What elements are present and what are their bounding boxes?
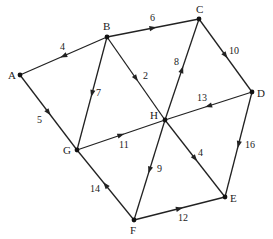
edges-group [20, 19, 252, 220]
arrowhead-icon [60, 52, 67, 57]
arrowhead-icon [132, 74, 138, 81]
arrowhead-icon [237, 140, 242, 147]
node-label: H [150, 109, 158, 121]
node-label: B [103, 20, 110, 32]
edge-weight-label: 7 [96, 87, 101, 98]
node-B [105, 35, 110, 40]
node-label: F [130, 224, 136, 236]
edge-weight-label: 2 [143, 70, 148, 81]
edge-weight-label: 11 [119, 139, 129, 150]
arrowhead-icon [148, 166, 153, 173]
edge-weight-label: 6 [150, 12, 155, 23]
node-E [223, 195, 228, 200]
arrowheads-group [44, 26, 242, 212]
node-H [163, 118, 168, 123]
edge-weight-label: 16 [245, 139, 255, 150]
node-C [197, 17, 202, 22]
node-G [75, 148, 80, 153]
edge-weight-label: 10 [229, 45, 239, 56]
labels-group: 45672810131194161214ABCDEFGH [8, 3, 265, 236]
edge-weight-label: 13 [197, 92, 207, 103]
edge-weight-label: 14 [90, 183, 100, 194]
node-D [250, 90, 255, 95]
edge-weight-label: 4 [60, 41, 65, 52]
edge-weight-label: 8 [174, 56, 179, 67]
node-A [18, 73, 23, 78]
arrowhead-icon [178, 66, 183, 73]
node-label: D [257, 87, 265, 99]
arrowhead-icon [221, 51, 227, 58]
edge-weight-label: 12 [178, 212, 188, 223]
node-label: A [8, 69, 16, 81]
node-label: G [63, 144, 71, 156]
edge-weight-label: 5 [37, 114, 42, 125]
node-label: E [230, 192, 237, 204]
node-label: C [196, 3, 203, 15]
arrowhead-icon [205, 102, 212, 107]
directed-graph-diagram: 45672810131194161214ABCDEFGH [0, 0, 273, 239]
arrowhead-icon [117, 134, 124, 139]
arrowhead-icon [90, 89, 95, 96]
edge-weight-label: 9 [157, 163, 162, 174]
edge-weight-label: 4 [198, 147, 203, 158]
node-F [132, 218, 137, 223]
